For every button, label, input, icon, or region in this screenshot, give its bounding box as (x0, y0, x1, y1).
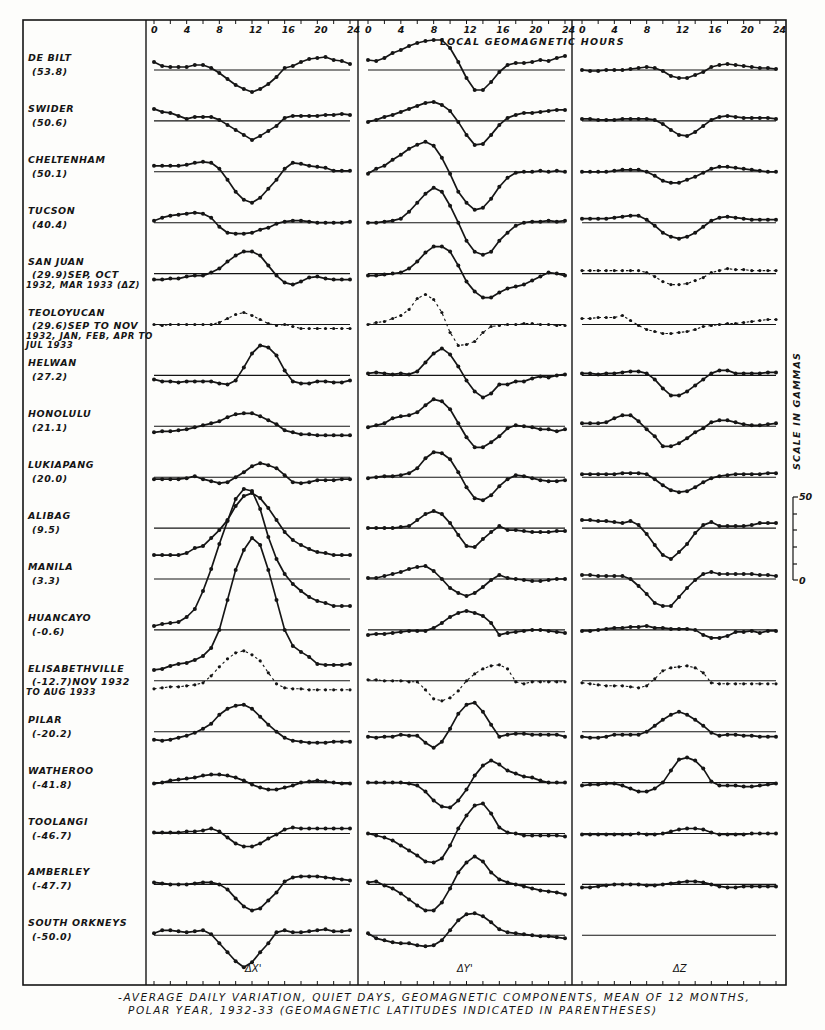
hour-tick-16: 16 (282, 24, 296, 35)
curve-dZ (582, 473, 776, 492)
curve-dZ (582, 216, 776, 239)
hour-tick-8: 8 (216, 24, 223, 35)
curve-dZ (582, 572, 776, 606)
hour-tick-4: 4 (610, 24, 618, 35)
station-latitude: (27.2) (32, 371, 68, 382)
curve-dX (154, 109, 350, 140)
hour-tick-0: 0 (151, 24, 158, 35)
hour-tick-20: 20 (529, 24, 543, 35)
station-latitude: (21.1) (32, 422, 68, 433)
station-latitude: (50.6) (32, 117, 68, 128)
station-name: WATHEROO (28, 765, 94, 776)
station-name: MANILA (28, 561, 73, 572)
station-latitude: (29.9)SEP, OCT (32, 269, 120, 280)
station-name: LUKIAPANG (28, 459, 94, 470)
curve-dX (154, 162, 350, 203)
hour-tick-0: 0 (579, 24, 586, 35)
curve-dY (368, 665, 565, 701)
station-name: CHELTENHAM (28, 154, 106, 165)
station-latitude: (9.5) (32, 524, 61, 535)
station-name: ALIBAG (27, 510, 71, 521)
component-label-dz: ΔZ (672, 963, 688, 974)
station-name: ELISABETHVILLE (28, 663, 124, 674)
hour-tick-8: 8 (431, 24, 438, 35)
curve-dY (368, 761, 565, 808)
station-labels: DE BILT(53.8)SWIDER(50.6)CHELTENHAM(50.1… (24, 52, 153, 942)
station-latitude: (-47.7) (32, 880, 72, 891)
hour-tick-0: 0 (365, 24, 372, 35)
curve-dX (154, 413, 350, 435)
curve-dY (368, 452, 565, 500)
curve-dX (154, 828, 350, 847)
curve-dY (368, 566, 565, 596)
station-name: SAN JUAN (28, 256, 84, 267)
curve-dX (154, 252, 350, 285)
curve-dZ (582, 167, 776, 183)
station-name: PILAR (28, 714, 62, 725)
station-name: TUCSON (28, 205, 75, 216)
curve-dZ (582, 758, 776, 792)
hour-tick-20: 20 (741, 24, 755, 35)
station-latitude: (-41.8) (32, 779, 72, 790)
geomagnetic-variation-figure: 048121620240481216202404812162024 LOCAL … (0, 0, 825, 1030)
curve-dY (368, 703, 565, 748)
hour-tick-20: 20 (314, 24, 328, 35)
curve-dY (368, 913, 565, 946)
curve-dY (368, 247, 565, 298)
curve-dZ (582, 269, 776, 285)
station-name: HONOLULU (28, 408, 91, 419)
station-latitude: (29.6)SEP TO NOV (32, 320, 138, 331)
station-name: SWIDER (28, 103, 74, 114)
curve-dY (368, 142, 565, 210)
station-latitude: (20.0) (32, 473, 68, 484)
hour-tick-4: 4 (397, 24, 405, 35)
curve-dY (368, 611, 565, 635)
hour-tick-16: 16 (708, 24, 722, 35)
station-name: TEOLOYUCAN (28, 307, 105, 318)
station-latitude: (3.3) (32, 575, 61, 586)
scale-min: 0 (799, 575, 806, 586)
station-name: TOOLANGI (28, 816, 88, 827)
curve-dX (154, 489, 350, 626)
station-name: AMBERLEY (27, 866, 91, 877)
curve-dZ (582, 370, 776, 395)
hour-tick-24: 24 (562, 24, 576, 35)
curve-dX (154, 876, 350, 910)
component-label-dx: ΔX' (244, 963, 261, 974)
hour-tick-24: 24 (773, 24, 787, 35)
station-note: TO AUG 1933 (26, 687, 96, 697)
station-latitude: (-46.7) (32, 830, 72, 841)
station-latitude: (-0.6) (32, 626, 65, 637)
caption-line-2: POLAR YEAR, 1932-33 (GEOMAGNETIC LATITUD… (128, 1004, 658, 1016)
station-latitude: (-20.2) (32, 728, 72, 739)
caption-line-1: -AVERAGE DAILY VARIATION, QUIET DAYS, GE… (118, 991, 750, 1003)
station-note: JUL 1933 (24, 340, 73, 350)
curve-dY (368, 399, 565, 447)
curve-dY (368, 511, 565, 547)
station-name: HELWAN (28, 357, 77, 368)
hour-tick-8: 8 (644, 24, 651, 35)
scale-max: 50 (799, 491, 813, 502)
component-label-dy: ΔY' (456, 963, 473, 974)
hour-tick-marks (154, 20, 776, 985)
curve-dY (368, 856, 565, 910)
station-latitude: (50.1) (32, 168, 68, 179)
hour-tick-12: 12 (464, 24, 478, 35)
curve-dX (154, 538, 350, 670)
station-name: DE BILT (28, 52, 73, 63)
curve-dY (368, 295, 565, 346)
curve-dX (154, 345, 350, 384)
station-latitude: (40.4) (32, 219, 68, 230)
hour-tick-4: 4 (183, 24, 191, 35)
curve-dZ (582, 712, 776, 738)
hour-tick-12: 12 (249, 24, 263, 35)
curve-dY (368, 348, 565, 397)
hour-tick-16: 16 (496, 24, 510, 35)
curve-dZ (582, 666, 776, 688)
figure-frame (23, 20, 786, 985)
variation-curves (152, 38, 778, 969)
curve-dX (154, 57, 350, 92)
curve-dZ (582, 64, 776, 78)
station-latitude: (-50.0) (32, 931, 72, 942)
scale-bar: SCALE IN GAMMAS 50 0 (791, 352, 813, 586)
